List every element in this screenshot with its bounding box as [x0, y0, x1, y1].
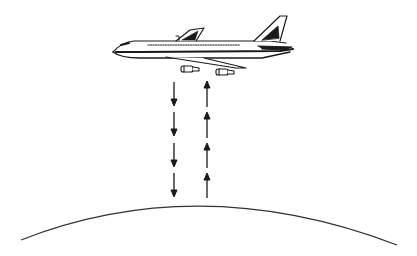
arrow-down-icon	[171, 82, 177, 197]
arrow-up-icon	[204, 81, 210, 198]
earth-surface-curve	[21, 206, 397, 245]
airplane-icon	[113, 16, 293, 75]
diagram	[0, 0, 417, 256]
